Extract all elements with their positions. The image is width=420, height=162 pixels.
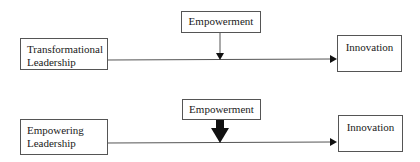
top-predictor-label: Transformational Leadership — [21, 39, 107, 69]
top-outcome-box: Innovation — [337, 35, 402, 72]
bottom-outcome-box: Innovation — [338, 115, 403, 152]
top-outcome-label: Innovation — [338, 36, 401, 54]
bottom-main-arrowhead-icon — [330, 138, 337, 146]
bottom-moderator-shaft — [216, 119, 224, 129]
bottom-outcome-label: Innovation — [339, 116, 402, 134]
bottom-moderator-label: Empowerment — [183, 100, 260, 116]
bottom-predictor-label: Empowering Leadership — [21, 120, 107, 150]
bottom-moderator-arrowhead-icon — [211, 128, 229, 143]
bottom-moderator-box: Empowerment — [182, 99, 261, 120]
bottom-main-path-line — [107, 142, 330, 143]
bottom-predictor-box: Empowering Leadership — [20, 119, 108, 155]
top-moderator-arrowhead-icon — [216, 53, 224, 60]
top-moderator-label: Empowerment — [182, 12, 260, 28]
top-main-arrowhead-icon — [330, 55, 337, 63]
top-moderator-box: Empowerment — [181, 11, 261, 33]
top-main-path-line — [107, 59, 330, 60]
top-predictor-box: Transformational Leadership — [20, 38, 108, 70]
